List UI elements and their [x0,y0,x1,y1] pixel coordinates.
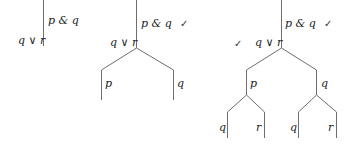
tree-3-check-icon-qr: ✓ [234,39,242,49]
tree-3-ll-branch [228,95,247,138]
tree-2-left-branch [102,48,137,100]
tree-3-rl-branch [299,95,317,138]
tree-3-leaf-q-right: q [290,122,297,133]
tree-2-right-branch [137,48,174,100]
tree-2-check-icon: ✓ [180,19,188,29]
tree-3-leaf-q-left: q [219,122,226,133]
tree-3-check-icon-pq: ✓ [324,19,332,29]
tree-3-branch-p: p [250,78,257,89]
tree-3-right-branch [282,48,317,95]
tree-3-rr-branch [317,95,337,138]
tree-2-branch-p: p [105,78,112,89]
tree-3-leaf-r-right: r [328,122,333,133]
tree-2-premise-pq: p & q [141,18,172,29]
tree-3-premise-qr: q ∨ r [255,37,282,48]
tree-3-leaf-r-left: r [256,122,261,133]
tree-1-premise-qr: q ∨ r [18,35,45,46]
tree-1-premise-pq: p & q [48,15,79,26]
tree-2-branch-q: q [177,78,184,89]
tree-3-branch-q: q [321,78,328,89]
tree-2-premise-qr: q ∨ r [110,37,137,48]
tree-3-premise-pq: p & q [285,18,316,29]
